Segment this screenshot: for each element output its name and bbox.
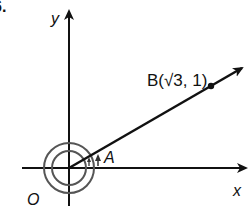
point-b-label: B(√3, 1) <box>147 71 207 90</box>
origin-label: O <box>27 191 39 208</box>
trig-angle-diagram: 6. y x O A B(√3, 1) <box>0 0 251 214</box>
point-b-dot <box>208 83 214 89</box>
figure-number: 6. <box>0 0 6 15</box>
angle-label: A <box>103 149 115 166</box>
x-axis-label: x <box>232 182 242 199</box>
y-axis-label: y <box>50 10 60 27</box>
